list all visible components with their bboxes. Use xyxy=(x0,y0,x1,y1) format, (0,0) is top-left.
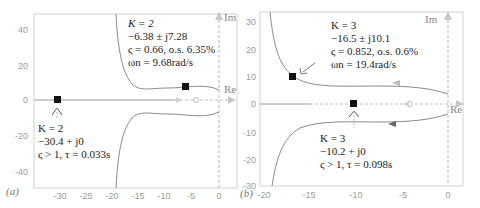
y-tick: 0 xyxy=(23,95,28,105)
x-tick: 0 xyxy=(445,190,450,200)
direction-arrow-icon xyxy=(176,97,182,103)
annotation-line: −30.4 + j0 xyxy=(38,135,84,147)
pole-marker xyxy=(350,100,357,107)
re-axis-arrow-icon xyxy=(228,96,236,104)
x-tick: -10 xyxy=(157,191,170,201)
y-tick: 0 xyxy=(251,99,256,109)
annotation-line: K = 2 xyxy=(38,122,63,134)
annotation-line: ς > 1, τ = 0.098s xyxy=(320,158,392,170)
x-tick: -5 xyxy=(399,190,407,200)
panel-a-label: (a) xyxy=(6,185,19,198)
direction-arrow-icon xyxy=(403,101,409,107)
x-tick: -5 xyxy=(187,191,195,201)
annotation-line: −6.38 ± j7.28 xyxy=(128,30,188,42)
panel-a-y-ticks: 40 20 0 -20 -40 xyxy=(15,25,28,177)
pole-marker xyxy=(289,73,296,80)
panel-a-lower-branch xyxy=(116,112,219,188)
panel-b-im-label: Im xyxy=(425,13,438,25)
x-tick: 0 xyxy=(216,191,221,201)
y-tick: 40 xyxy=(18,25,28,35)
im-axis-arrow-icon xyxy=(215,11,223,20)
pointer-arrow-icon xyxy=(300,68,307,74)
direction-arrow-icon xyxy=(392,80,400,86)
panel-b: 30 20 10 0 -10 -20 -30 -20 -15 -10 -5 0 … xyxy=(240,11,464,200)
annotation-line: ς = 0.66, o.s. 6.35% xyxy=(128,43,215,55)
annotation-line: −16.5 ± j10.1 xyxy=(331,32,390,44)
x-tick: -15 xyxy=(302,190,315,200)
y-tick: 20 xyxy=(246,45,256,55)
x-tick: -20 xyxy=(257,190,270,200)
annotation-line: K = 3 xyxy=(331,19,357,31)
panel-b-x-ticks: -20 -15 -10 -5 0 xyxy=(257,190,450,200)
panel-a-x-ticks: -30 -25 -20 -15 -10 -5 0 xyxy=(53,191,221,201)
annotation-line: ς = 0.852, o.s. 0.6% xyxy=(331,45,418,57)
annotation-line: −10.2 + j0 xyxy=(320,145,366,157)
y-tick: 10 xyxy=(246,72,256,82)
y-tick: 30 xyxy=(246,17,256,27)
annotation-line: ωn = 9.68rad/s xyxy=(128,56,193,68)
panel-b-y-ticks: 30 20 10 0 -10 -20 -30 xyxy=(243,17,256,191)
y-tick: -20 xyxy=(15,131,28,141)
x-tick: -30 xyxy=(53,191,66,201)
panel-a-im-label: Im xyxy=(224,11,237,23)
x-tick: -25 xyxy=(79,191,92,201)
y-tick: 20 xyxy=(18,61,28,71)
x-tick: -20 xyxy=(105,191,118,201)
pole-marker xyxy=(54,96,61,103)
x-tick: -15 xyxy=(131,191,144,201)
annotation-line: K = 3 xyxy=(320,132,346,144)
panel-b-label: (b) xyxy=(240,187,253,200)
panel-a-re-label: Re xyxy=(224,83,236,95)
pole-marker xyxy=(182,83,189,90)
annotation-line: ς > 1, τ = 0.033s xyxy=(38,148,110,160)
y-tick: -40 xyxy=(15,167,28,177)
panel-b-re-label: Re xyxy=(450,103,462,115)
annotation-line: K = 2 xyxy=(127,17,154,29)
panel-a: 40 20 0 -20 -40 -30 -25 -20 -15 -10 -5 0… xyxy=(6,11,237,201)
pointer-line xyxy=(303,63,315,72)
y-tick: -10 xyxy=(243,128,256,138)
root-locus-figure: 40 20 0 -20 -40 -30 -25 -20 -15 -10 -5 0… xyxy=(0,0,480,208)
annotation-line: ωn = 19.4rad/s xyxy=(331,58,396,70)
y-tick: -20 xyxy=(243,155,256,165)
open-pole-icon xyxy=(194,98,199,103)
x-tick: -10 xyxy=(349,190,362,200)
